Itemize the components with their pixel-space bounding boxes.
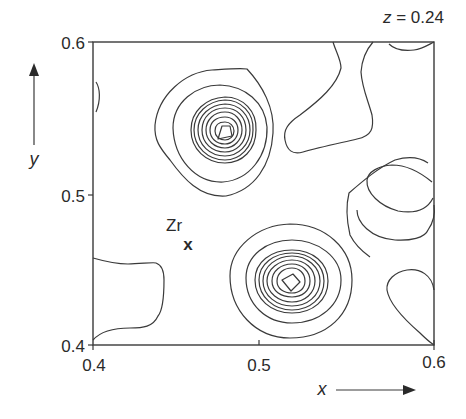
chart-title: z = 0.24	[382, 8, 444, 27]
zr-label: Zr	[166, 216, 182, 235]
x-tick-label: 0.5	[247, 356, 271, 375]
lower-peak-contours	[230, 224, 352, 338]
y-axis: 0.6 0.5 0.4 y	[28, 34, 94, 356]
plot-frame	[93, 42, 434, 345]
y-tick-label: 0.6	[61, 34, 85, 53]
y-axis-label: y	[28, 149, 40, 169]
zr-marker-icon: x	[183, 235, 193, 254]
x-axis: 0.4 0.5 0.6 x	[82, 340, 446, 399]
upper-peak-contours	[155, 69, 273, 197]
x-tick-label: 0.6	[422, 353, 446, 372]
x-axis-label: x	[317, 379, 328, 399]
y-tick-label: 0.5	[61, 187, 85, 206]
contour-chart: z = 0.24 0.6 0.5 0.4 y 0.4 0.5 0.6 x	[0, 0, 466, 419]
arrow-right-icon	[403, 385, 416, 395]
arrow-up-icon	[29, 63, 39, 76]
x-tick-label: 0.4	[82, 356, 106, 375]
minor-contours	[93, 42, 434, 345]
y-tick-label: 0.4	[61, 337, 85, 356]
